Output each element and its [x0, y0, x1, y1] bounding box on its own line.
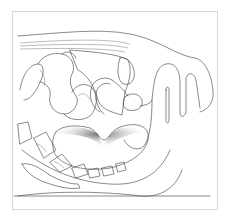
curved-organ	[90, 58, 142, 114]
shaded-organ	[53, 125, 149, 170]
back-contour	[18, 31, 213, 112]
hatched-organ	[70, 50, 130, 115]
anatomical-illustration	[0, 0, 230, 216]
intestine-loops	[20, 52, 96, 120]
fold-contour	[124, 64, 200, 149]
